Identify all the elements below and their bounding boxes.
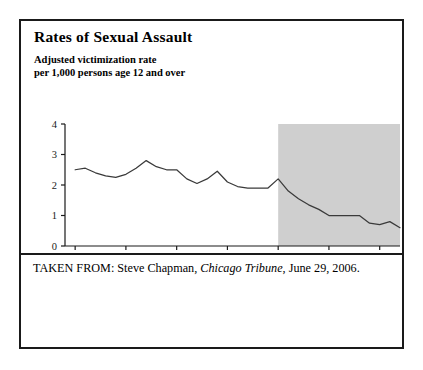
caption-prefix: TAKEN FROM: Steve Chapman, [33,261,200,275]
y-axis-tick-label: 4 [52,119,58,130]
caption-divider [21,253,402,255]
shaded-region [278,124,400,246]
source-caption: TAKEN FROM: Steve Chapman, Chicago Tribu… [33,261,360,276]
chart-subtitle: Adjusted victimization rate per 1,000 pe… [34,54,185,79]
y-axis-tick-label: 0 [52,241,57,252]
y-axis-tick-label: 2 [52,180,57,191]
figure-frame: Rates of Sexual Assault Adjusted victimi… [19,19,404,349]
chart-svg: 012341973197819831988199319982003 [21,89,402,254]
y-axis-tick-label: 1 [52,210,57,221]
caption-source-name: Chicago Tribune [200,261,282,275]
page-title: Rates of Sexual Assault [34,28,192,46]
shaded-period-rect [278,124,400,246]
caption-suffix: , June 29, 2006. [283,261,360,275]
y-axis-tick-label: 3 [52,149,57,160]
line-chart: 012341973197819831988199319982003 [21,89,402,254]
chart-subtitle-line-1: Adjusted victimization rate [34,54,185,67]
chart-plot-area: 012341973197819831988199319982003 [21,89,402,254]
chart-subtitle-line-2: per 1,000 persons age 12 and over [34,67,185,80]
